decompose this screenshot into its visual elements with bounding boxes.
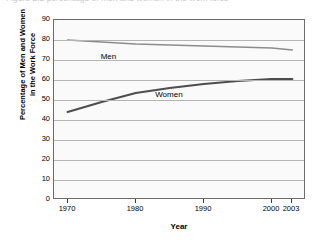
gridline: [54, 80, 304, 81]
x-axis: 19701980199020002003: [53, 199, 305, 219]
x-tick-mark: [203, 199, 204, 203]
gridline: [54, 100, 304, 101]
gridline: [54, 60, 304, 61]
y-tick-label: 90: [30, 15, 50, 23]
x-tick-label: 1990: [195, 204, 212, 213]
y-tick-label: 80: [30, 35, 50, 43]
y-tick-label: 0: [30, 195, 50, 203]
y-tick-label: 50: [30, 95, 50, 103]
y-axis-title-line1: Percentage of Men and Women: [18, 9, 27, 120]
series-label-men: Men: [101, 52, 117, 61]
x-tick-label: 2000: [263, 204, 280, 213]
series-line-men: [68, 40, 293, 50]
gridline: [54, 40, 304, 41]
gridline: [54, 120, 304, 121]
x-tick-mark: [67, 199, 68, 203]
y-tick-label: 20: [30, 155, 50, 163]
y-tick-label: 60: [30, 75, 50, 83]
gridline: [54, 160, 304, 161]
x-tick-mark: [135, 199, 136, 203]
x-tick-mark: [291, 199, 292, 203]
x-tick-label: 1970: [59, 204, 76, 213]
y-tick-label: 70: [30, 55, 50, 63]
y-tick-label: 10: [30, 175, 50, 183]
series-plot-svg: [54, 20, 305, 199]
figure-caption-clipped: Figure 2.1 percentage of men and women i…: [6, 0, 306, 3]
x-tick-mark: [271, 199, 272, 203]
figure-container: Figure 2.1 percentage of men and women i…: [0, 0, 314, 243]
x-tick-label: 2003: [283, 204, 300, 213]
gridline: [54, 180, 304, 181]
series-label-women: Women: [155, 90, 182, 99]
y-tick-label: 30: [30, 135, 50, 143]
plot-area: [53, 19, 305, 199]
y-axis-tick-labels: 9080706050403020100: [30, 0, 50, 243]
x-tick-label: 1980: [127, 204, 144, 213]
x-axis-title: Year: [53, 222, 305, 231]
figure-caption-text: Figure 2.1 percentage of men and women i…: [6, 0, 306, 3]
gridline: [54, 140, 304, 141]
y-tick-label: 40: [30, 115, 50, 123]
